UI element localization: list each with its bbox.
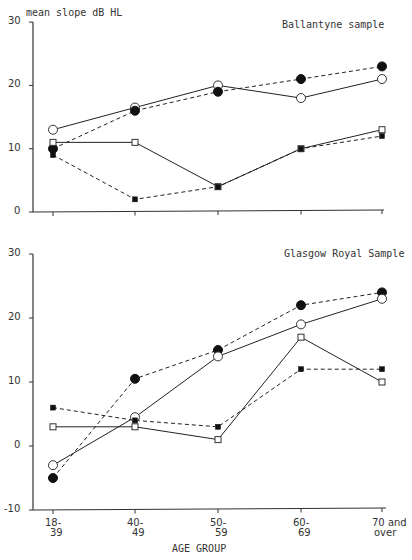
y-tick-label: 10 bbox=[8, 142, 21, 153]
x-tick-label: over bbox=[374, 527, 397, 538]
top-chart: mean slope dB HL Ballantyne sample 01020… bbox=[8, 7, 387, 216]
top-chart-title: Ballantyne sample bbox=[282, 19, 384, 30]
filled-square-marker bbox=[133, 197, 138, 202]
y-tick-label: 30 bbox=[8, 247, 21, 258]
open-square-marker bbox=[215, 437, 221, 443]
open-square-marker bbox=[50, 139, 56, 145]
filled-circle-marker bbox=[49, 474, 58, 483]
open-square-marker bbox=[50, 424, 56, 430]
filled-circle-marker bbox=[297, 75, 306, 84]
y-tick-label: 10 bbox=[8, 375, 21, 386]
open-circle-marker bbox=[378, 294, 387, 303]
open-square-marker bbox=[298, 334, 304, 340]
filled-circle-marker bbox=[297, 301, 306, 310]
bottom-chart-title: Glasgow Royal Sample bbox=[284, 248, 404, 259]
filled-square-marker bbox=[380, 367, 385, 372]
filled-circle-marker bbox=[214, 87, 223, 96]
open-square-marker bbox=[132, 139, 138, 145]
top-series-line bbox=[53, 66, 382, 148]
x-axis-label: AGE GROUP bbox=[172, 543, 226, 554]
filled-square-marker bbox=[133, 418, 138, 423]
filled-circle-marker bbox=[131, 374, 140, 383]
y-tick-label: 30 bbox=[8, 15, 21, 26]
bottom-chart: Glasgow Royal Sample -100102030 18-3940-… bbox=[4, 247, 407, 554]
open-circle-marker bbox=[214, 352, 223, 361]
x-tick-label: 59 bbox=[215, 527, 228, 538]
x-tick-label: 39 bbox=[50, 527, 63, 538]
filled-circle-marker bbox=[131, 106, 140, 115]
bottom-series-line bbox=[53, 292, 382, 478]
open-square-marker bbox=[379, 379, 385, 385]
y-tick-label: 0 bbox=[14, 439, 20, 450]
filled-square-marker bbox=[216, 184, 221, 189]
filled-square-marker bbox=[299, 367, 304, 372]
age-group-slope-chart: mean slope dB HL Ballantyne sample 01020… bbox=[0, 0, 412, 560]
x-tick-label: 49 bbox=[132, 527, 145, 538]
bottom-x-axis bbox=[33, 508, 386, 510]
filled-square-marker bbox=[380, 134, 385, 139]
open-circle-marker bbox=[297, 320, 306, 329]
y-axis-label: mean slope dB HL bbox=[26, 7, 122, 18]
open-square-marker bbox=[379, 127, 385, 133]
y-tick-label: 0 bbox=[14, 205, 20, 216]
open-square-marker bbox=[132, 424, 138, 430]
top-x-axis bbox=[33, 210, 384, 212]
y-tick-label: -10 bbox=[4, 503, 20, 514]
open-circle-marker bbox=[49, 461, 58, 470]
filled-circle-marker bbox=[378, 62, 387, 71]
x-tick-label: 69 bbox=[298, 527, 311, 538]
open-circle-marker bbox=[378, 75, 387, 84]
filled-square-marker bbox=[299, 146, 304, 151]
top-series-line bbox=[53, 130, 382, 187]
open-circle-marker bbox=[49, 125, 58, 134]
open-circle-marker bbox=[297, 94, 306, 103]
y-tick-label: 20 bbox=[8, 311, 21, 322]
filled-square-marker bbox=[51, 153, 56, 158]
filled-square-marker bbox=[216, 424, 221, 429]
filled-square-marker bbox=[51, 405, 56, 410]
y-tick-label: 20 bbox=[8, 78, 21, 89]
